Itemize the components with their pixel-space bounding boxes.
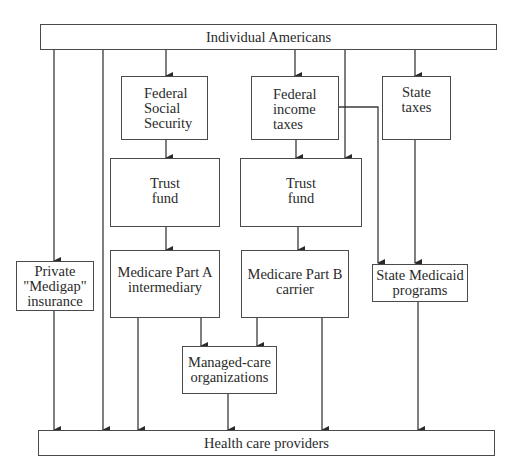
node-label-line: Managed-care <box>188 355 271 370</box>
node-label-line: Medicare Part A <box>117 265 212 280</box>
node-label-line: taxes <box>273 117 303 132</box>
node-label-line: Social <box>144 101 180 116</box>
node-label-line: State Medicaid <box>376 268 463 283</box>
node-label-line: carrier <box>276 282 314 297</box>
node-trust-fund-part-a: Trust fund <box>110 158 220 227</box>
node-label-line: insurance <box>27 294 83 309</box>
node-federal-social-security: Federal Social Security <box>121 76 208 140</box>
node-label: Health care providers <box>204 436 329 451</box>
node-label-line: Federal <box>273 87 316 102</box>
node-label-line: fund <box>152 191 179 206</box>
node-label-line: programs <box>393 283 448 298</box>
node-label-line: Trust <box>286 176 316 191</box>
node-label-line: organizations <box>191 370 269 385</box>
node-medicare-part-b-carrier: Medicare Part B carrier <box>241 250 349 318</box>
node-medicare-part-a-intermediary: Medicare Part A intermediary <box>110 250 220 318</box>
node-label-line: Federal <box>144 86 187 101</box>
node-individual-americans: Individual Americans <box>40 24 497 50</box>
node-label-line: taxes <box>402 100 432 115</box>
connector-lines <box>0 0 531 473</box>
node-trust-fund-part-b: Trust fund <box>240 158 362 227</box>
node-label-line: intermediary <box>128 280 202 295</box>
node-private-medigap-insurance: Private "Medigap" insurance <box>16 261 94 311</box>
node-federal-income-taxes: Federal income taxes <box>251 76 339 140</box>
node-label-line: fund <box>288 191 315 206</box>
node-label-line: Private <box>34 264 75 279</box>
node-label-line: income <box>273 102 316 117</box>
node-label-line: Trust <box>150 176 180 191</box>
node-label: Individual Americans <box>206 30 331 45</box>
node-label-line: "Medigap" <box>23 279 86 294</box>
node-label-line: Security <box>144 116 192 131</box>
node-label-line: State <box>402 85 431 100</box>
node-health-care-providers: Health care providers <box>38 430 495 456</box>
node-label-line: Medicare Part B <box>247 267 342 282</box>
node-state-medicaid-programs: State Medicaid programs <box>372 264 468 302</box>
node-managed-care-organizations: Managed-care organizations <box>182 346 277 394</box>
node-state-taxes: State taxes <box>382 76 451 140</box>
